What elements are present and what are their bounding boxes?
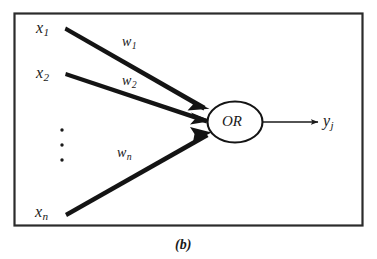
output-label-yj: yj [323, 113, 333, 129]
input-label-x1: x1 [36, 20, 49, 36]
weight-label-w2: w2 [122, 74, 136, 88]
figure-container: x1 x2 xn w1 w2 wn OR yj (b) [0, 0, 377, 259]
vertical-ellipsis [60, 128, 63, 161]
weight-label-wn: wn [117, 146, 131, 160]
weight-label-w1: w1 [122, 35, 136, 49]
connection-xn-to-or [65, 127, 212, 217]
input-label-xn: xn [35, 204, 48, 220]
or-node-label: OR [222, 114, 242, 129]
figure-caption: (b) [175, 238, 191, 252]
figure-frame [15, 14, 363, 226]
diagram-canvas [0, 0, 377, 259]
input-label-x2: x2 [36, 65, 49, 81]
